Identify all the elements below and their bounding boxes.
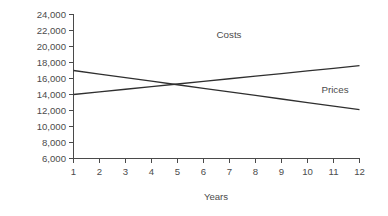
- line-chart-figure: 24,000 22,000 20,000 18,000 16,000 14,00…: [0, 0, 388, 216]
- x-tick-label: 12: [354, 166, 365, 177]
- x-tick-label: 6: [201, 166, 206, 177]
- series-annotation-costs: Costs: [216, 29, 241, 40]
- x-axis-title: Years: [204, 191, 228, 202]
- y-tick-label: 8,000: [42, 137, 66, 148]
- x-tick-label: 11: [329, 166, 339, 177]
- y-tick-label: 14,000: [37, 89, 66, 100]
- series-annotation-prices: Prices: [321, 84, 348, 95]
- y-tick-label: 22,000: [37, 25, 66, 36]
- y-tick-label: 18,000: [37, 57, 66, 68]
- x-tick-label: 2: [97, 166, 102, 177]
- y-tick-label: 10,000: [37, 121, 66, 132]
- x-tick-label: 3: [123, 166, 128, 177]
- x-tick-label: 7: [227, 166, 232, 177]
- x-tick-label: 5: [175, 166, 180, 177]
- y-tick-label: 6,000: [42, 153, 66, 164]
- x-tick-label: 4: [149, 166, 155, 177]
- x-tick-label: 9: [279, 166, 284, 177]
- x-tick-label: 10: [302, 166, 313, 177]
- y-tick-label: 24,000: [37, 9, 66, 20]
- y-tick-label: 12,000: [37, 105, 66, 116]
- chart-canvas: 24,000 22,000 20,000 18,000 16,000 14,00…: [0, 0, 388, 216]
- x-tick-label: 1: [71, 166, 76, 177]
- x-tick-label: 8: [253, 166, 258, 177]
- y-tick-label: 20,000: [37, 41, 66, 52]
- y-tick-label: 16,000: [37, 73, 66, 84]
